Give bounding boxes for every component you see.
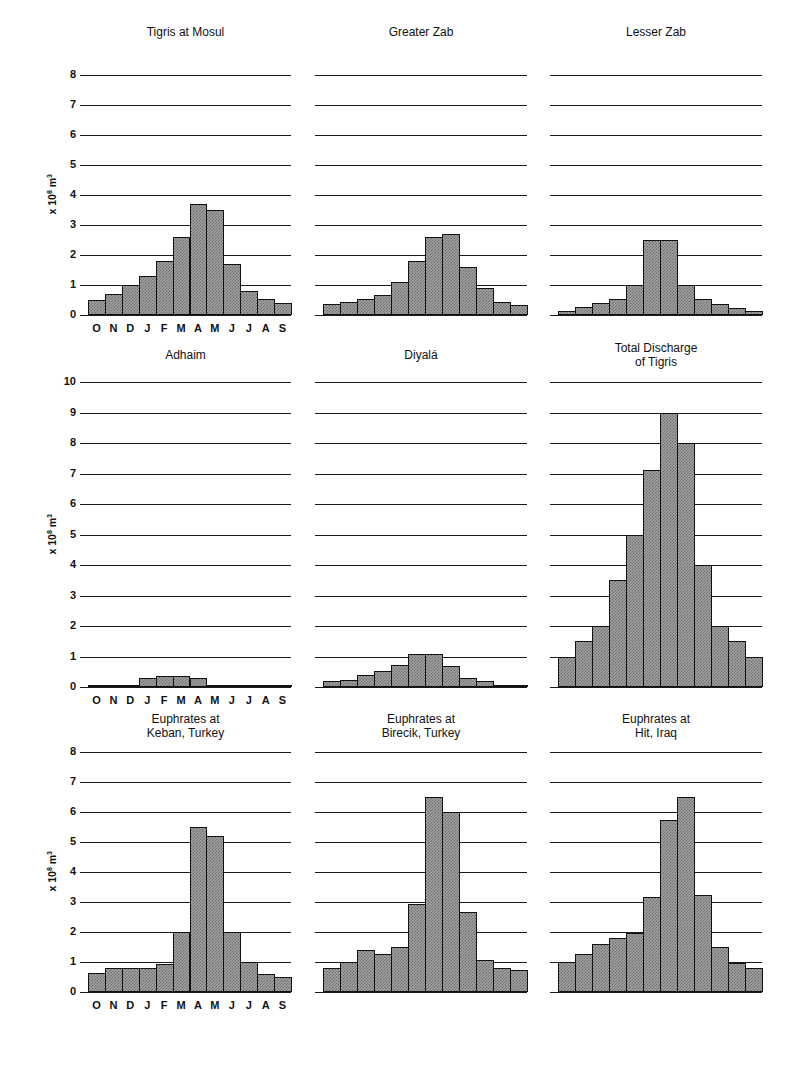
x-tick-label: J: [139, 694, 156, 706]
bar-O: [88, 973, 106, 993]
bar-J: [139, 276, 157, 315]
x-tick-label: D: [122, 999, 139, 1011]
gridline: [80, 443, 291, 444]
bar-J: [223, 264, 241, 315]
panel-title-line: Euphrates at: [315, 712, 527, 726]
panel-title: Euphrates atBirecik, Turkey: [315, 712, 527, 740]
gridline: [315, 165, 527, 166]
bar-chart-euphrates-at-keban-turkey: [80, 752, 291, 992]
gridline: [80, 135, 291, 136]
bar-D: [592, 303, 610, 315]
bar-M: [677, 797, 695, 992]
bar-F: [391, 947, 409, 992]
gridline: [80, 382, 291, 383]
gridline: [80, 596, 291, 597]
bar-A: [660, 240, 678, 315]
y-tick-label: 1: [58, 279, 76, 290]
bar-F: [626, 933, 644, 992]
bar-A: [660, 820, 678, 993]
bar-J: [139, 678, 157, 687]
y-tick-label: 2: [58, 620, 76, 631]
bar-M: [206, 685, 224, 687]
panel-title: Euphrates atKeban, Turkey: [80, 712, 291, 740]
x-tick-label: O: [88, 322, 105, 334]
bar-M: [173, 676, 191, 687]
x-tick-label: D: [122, 694, 139, 706]
y-axis-label: x 108 m3: [46, 494, 59, 574]
y-tick-label: 7: [58, 776, 76, 787]
bar-J: [459, 912, 477, 992]
x-tick-label: A: [190, 999, 207, 1011]
gridline: [550, 752, 762, 753]
y-tick-label: 1: [58, 651, 76, 662]
bar-A: [425, 237, 443, 315]
bar-chart-adhaim: [80, 382, 291, 687]
gridline: [315, 195, 527, 196]
gridline: [315, 413, 527, 414]
bar-M: [173, 237, 191, 315]
bar-A: [425, 654, 443, 687]
bar-J: [223, 685, 241, 687]
gridline: [550, 782, 762, 783]
y-tick-label: 3: [58, 896, 76, 907]
panel-title: Euphrates atHit, Iraq: [550, 712, 762, 740]
gridline: [80, 474, 291, 475]
panel-title: Greater Zab: [315, 25, 527, 39]
y-tick-label: 4: [58, 189, 76, 200]
gridline: [315, 596, 527, 597]
bar-J: [711, 304, 729, 315]
bar-J: [609, 938, 627, 992]
gridline: [80, 752, 291, 753]
y-tick-label: 9: [58, 407, 76, 418]
x-tick-label: J: [240, 322, 257, 334]
bar-J: [694, 565, 712, 687]
panel-title-line: Euphrates at: [550, 712, 762, 726]
x-tick-label: M: [173, 694, 190, 706]
gridline: [315, 872, 527, 873]
x-tick-label: N: [105, 694, 122, 706]
bar-O: [558, 657, 576, 688]
y-tick-label: 5: [58, 159, 76, 170]
gridline: [550, 413, 762, 414]
bar-N: [340, 680, 358, 687]
gridline: [80, 315, 291, 316]
x-tick-label: J: [240, 999, 257, 1011]
panel-title-line: Keban, Turkey: [80, 726, 291, 740]
y-tick-label: 0: [58, 681, 76, 692]
panel-title: Lesser Zab: [550, 25, 762, 39]
gridline: [315, 75, 527, 76]
bar-J: [476, 288, 494, 315]
gridline: [315, 687, 527, 688]
bar-J: [476, 960, 494, 992]
gridline: [80, 105, 291, 106]
bar-D: [357, 675, 375, 687]
gridline: [315, 443, 527, 444]
x-tick-label: M: [206, 322, 223, 334]
gridline: [80, 225, 291, 226]
bar-A: [190, 827, 208, 992]
gridline: [80, 195, 291, 196]
bar-M: [442, 666, 460, 687]
gridline: [80, 165, 291, 166]
bar-M: [408, 261, 426, 315]
gridline: [550, 842, 762, 843]
panel-title: Tigris at Mosul: [80, 25, 291, 39]
gridline: [550, 687, 762, 688]
gridline: [550, 382, 762, 383]
bar-N: [575, 954, 593, 992]
x-tick-label: D: [122, 322, 139, 334]
bar-S: [510, 685, 528, 687]
panel-title-line: Adhaim: [80, 348, 291, 362]
bar-D: [357, 950, 375, 992]
x-tick-label: O: [88, 999, 105, 1011]
bar-J: [459, 678, 477, 687]
gridline: [80, 626, 291, 627]
y-tick-label: 8: [58, 437, 76, 448]
y-tick-label: 2: [58, 249, 76, 260]
x-tick-label: S: [274, 694, 291, 706]
y-tick-label: 6: [58, 129, 76, 140]
bar-M: [442, 812, 460, 992]
x-tick-label: M: [173, 322, 190, 334]
bar-O: [558, 311, 576, 315]
gridline: [315, 812, 527, 813]
